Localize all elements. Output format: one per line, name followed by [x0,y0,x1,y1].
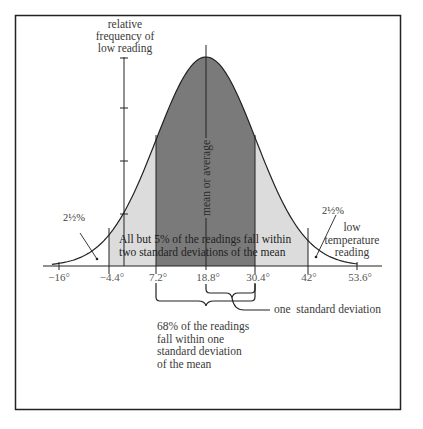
two-sd-caption-line: All but 5% of the readings fall within [119,233,291,245]
mean-label: mean or average [200,138,212,218]
two-sd-caption-line: two standard deviations of the mean [119,246,291,258]
y-axis-label: relative frequency of low reading [92,18,158,54]
one-sd-label: one standard deviation [274,303,381,315]
x-axis-label-line: low [320,221,384,234]
y-axis-label-line: relative [92,18,158,30]
brace-one-sd [206,284,255,298]
left-tail-pointer [80,233,97,259]
tick-label: 53.6° [348,272,372,284]
left-tail-pointer-dot [96,258,99,261]
tick-label: 30.4° [246,272,270,284]
right-tail-pointer-dot [315,256,318,259]
y-axis-label-line: low reading [92,42,158,54]
two-sd-caption: All but 5% of the readings fall within t… [119,233,291,258]
tick-label: −16° [48,272,70,284]
tick-label: −4.4° [100,272,124,284]
tick-label: 7.2° [149,272,167,284]
one-sd-caption-line: of the mean [157,358,249,371]
x-axis-label-line: temperature [320,234,384,247]
left-tail-percent: 2½% [63,212,85,223]
one-sd-caption-line: 68% of the readings [157,320,249,333]
normal-distribution-figure: relative frequency of low reading mean o… [0,0,423,429]
one-sd-leader [232,298,270,310]
x-axis-label: low temperature reading [320,221,384,259]
tick-label: 42° [301,272,316,284]
x-axis-label-line: reading [320,246,384,259]
one-sd-caption-line: fall within one [157,333,249,346]
y-axis-label-line: frequency of [92,30,158,42]
one-sd-caption: 68% of the readings fall within one stan… [157,320,249,371]
mean-label-text: mean or average [200,140,212,216]
tick-label: 18.8° [196,272,220,284]
right-tail-percent: 2½% [322,205,344,216]
one-sd-caption-line: standard deviation [157,345,249,358]
